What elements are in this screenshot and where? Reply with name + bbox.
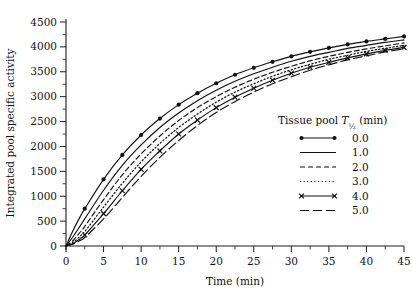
marker-circle — [158, 116, 162, 120]
marker-circle — [177, 103, 181, 107]
y-tick-label: 3500 — [30, 65, 57, 77]
legend-item[interactable]: 4.0 — [299, 190, 369, 202]
legend-item[interactable]: 5.0 — [300, 204, 369, 216]
marker-circle — [233, 73, 237, 77]
marker-circle — [308, 50, 312, 54]
marker-circle — [346, 42, 350, 46]
legend-item[interactable]: 2.0 — [300, 161, 369, 173]
marker-x — [233, 95, 238, 100]
marker-x — [157, 149, 162, 154]
marker-circle — [402, 34, 406, 38]
marker-circle — [289, 54, 293, 58]
y-tick-label: 3000 — [30, 90, 57, 102]
y-tick-label: 4500 — [30, 16, 57, 28]
legend-title-text: Tissue pool — [278, 114, 342, 126]
marker-x — [101, 211, 106, 216]
marker-x — [176, 132, 181, 137]
y-tick-label: 500 — [37, 215, 57, 227]
marker-circle — [252, 66, 256, 70]
x-tick-label: 35 — [322, 255, 335, 267]
y-tick-label: 1000 — [30, 190, 57, 202]
legend-item-label: 5.0 — [352, 204, 369, 216]
legend-item-label: 2.0 — [352, 161, 369, 173]
x-axis-tick-labels: 051015202530354045 — [63, 255, 411, 267]
marker-circle — [139, 133, 143, 137]
x-axis-title: Time (min) — [206, 275, 264, 287]
x-tick-label: 0 — [63, 255, 70, 267]
y-tick-label: 4000 — [30, 40, 57, 52]
legend-item[interactable]: 1.0 — [300, 146, 369, 158]
marker-circle — [83, 207, 87, 211]
x-tick-label: 5 — [100, 255, 107, 267]
legend-title: Tissue pool T½ (min) — [278, 114, 387, 131]
marker-circle — [327, 46, 331, 50]
y-tick-label: 0 — [50, 240, 57, 252]
y-axis-title: Integrated pool specific activity — [4, 49, 16, 218]
x-tick-label: 30 — [285, 255, 298, 267]
marker-circle — [270, 60, 274, 64]
marker-x — [195, 118, 200, 123]
y-tick-label: 2000 — [30, 140, 57, 152]
legend-item-label: 3.0 — [352, 175, 369, 187]
legend-item-label: 0.0 — [352, 132, 369, 144]
x-tick-label: 10 — [134, 255, 147, 267]
marker-x — [82, 233, 87, 238]
y-axis-tick-labels: 050010001500200025003000350040004500 — [30, 16, 57, 252]
legend-items: 0.01.02.03.04.05.0 — [299, 132, 369, 217]
x-tick-label: 20 — [210, 255, 223, 267]
x-axis-ticks — [66, 246, 404, 252]
legend-item-label: 4.0 — [352, 190, 369, 202]
legend-item[interactable]: 3.0 — [300, 175, 369, 187]
marker-circle — [120, 153, 124, 157]
legend-item[interactable]: 0.0 — [299, 132, 368, 144]
marker-circle — [101, 177, 105, 181]
x-tick-label: 40 — [360, 255, 373, 267]
marker-x — [214, 105, 219, 110]
marker-circle — [383, 37, 387, 41]
marker-x — [270, 78, 275, 83]
legend-title-unit: (min) — [356, 114, 388, 126]
marker-circle — [364, 39, 368, 43]
marker-x — [251, 86, 256, 91]
legend-title-subscript: ½ — [349, 122, 356, 131]
x-tick-label: 45 — [397, 255, 410, 267]
legend: Tissue pool T½ (min) 0.01.02.03.04.05.0 — [278, 114, 387, 216]
legend-marker-circle — [299, 136, 303, 140]
y-axis-ticks — [60, 22, 66, 246]
chart-svg: 050010001500200025003000350040004500 051… — [0, 0, 412, 297]
marker-x — [120, 188, 125, 193]
y-tick-label: 2500 — [30, 115, 57, 127]
legend-marker-circle — [332, 136, 336, 140]
x-tick-label: 15 — [172, 255, 185, 267]
y-tick-label: 1500 — [30, 165, 57, 177]
marker-circle — [195, 91, 199, 95]
marker-circle — [214, 81, 218, 85]
chart-figure: 050010001500200025003000350040004500 051… — [0, 0, 412, 297]
plot-area: 050010001500200025003000350040004500 051… — [0, 0, 412, 297]
legend-item-label: 1.0 — [352, 146, 369, 158]
marker-x — [139, 167, 144, 172]
x-tick-label: 25 — [247, 255, 260, 267]
